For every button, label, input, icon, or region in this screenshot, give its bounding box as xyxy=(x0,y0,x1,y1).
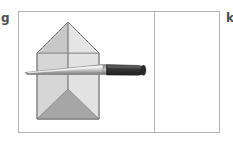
panel-label-right: k xyxy=(226,12,233,24)
figure-root: g k xyxy=(0,0,233,144)
scene-illustration xyxy=(19,12,221,134)
panel-label-left: g xyxy=(1,12,10,24)
figure-frame xyxy=(18,11,220,133)
knife-handle-butt xyxy=(141,65,146,75)
